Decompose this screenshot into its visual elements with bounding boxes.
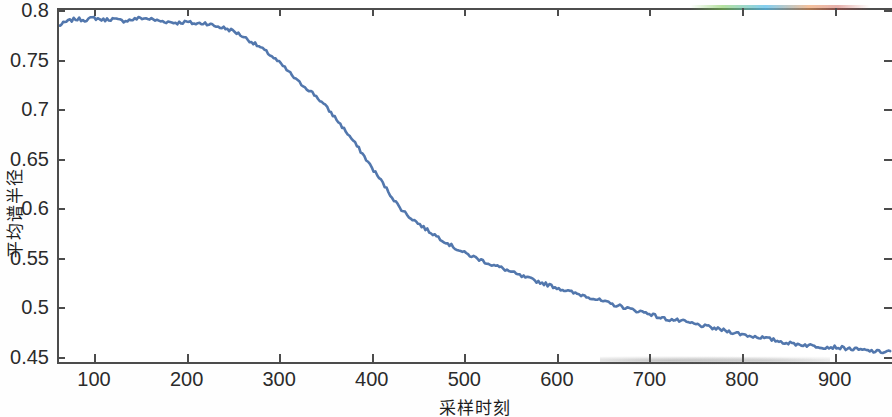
x-tick-top-800 [742, 8, 744, 16]
x-tick-label-500: 500 [448, 368, 481, 391]
x-tick-600 [557, 354, 559, 362]
y-tick-right-0.7 [884, 109, 892, 111]
axis-top-spine [57, 8, 892, 10]
axis-bottom-spine [57, 362, 892, 364]
y-tick-right-0.65 [884, 159, 892, 161]
x-tick-label-600: 600 [540, 368, 573, 391]
y-tick-0.55 [57, 258, 65, 260]
y-tick-label-0.45: 0.45 [10, 346, 49, 369]
x-tick-top-200 [187, 8, 189, 16]
x-tick-label-800: 800 [725, 368, 758, 391]
y-tick-right-0.5 [884, 307, 892, 309]
y-tick-right-0.55 [884, 258, 892, 260]
x-tick-400 [372, 354, 374, 362]
x-tick-500 [464, 354, 466, 362]
y-tick-0.65 [57, 159, 65, 161]
x-tick-top-300 [279, 8, 281, 16]
x-tick-900 [835, 354, 837, 362]
x-tick-label-100: 100 [77, 368, 110, 391]
plot-area [57, 8, 892, 362]
x-tick-800 [742, 354, 744, 362]
x-tick-top-400 [372, 8, 374, 16]
chart-figure: 100200300400500600700800900 0.450.50.550… [0, 0, 892, 417]
x-axis-title: 采样时刻 [57, 394, 892, 417]
x-tick-label-400: 400 [355, 368, 388, 391]
y-tick-right-0.8 [884, 10, 892, 12]
x-tick-label-200: 200 [170, 368, 203, 391]
y-tick-right-0.45 [884, 357, 892, 359]
x-tick-top-700 [649, 8, 651, 16]
y-tick-right-0.75 [884, 60, 892, 62]
y-tick-0.7 [57, 109, 65, 111]
y-tick-0.75 [57, 60, 65, 62]
y-tick-0.5 [57, 307, 65, 309]
y-tick-0.6 [57, 208, 65, 210]
y-tick-right-0.6 [884, 208, 892, 210]
y-axis-title: 平均谱半径 [1, 148, 26, 278]
series-line-average-spectral-radius [57, 8, 892, 362]
x-tick-top-900 [835, 8, 837, 16]
y-tick-label-0.75: 0.75 [10, 48, 49, 71]
x-tick-700 [649, 354, 651, 362]
x-tick-label-900: 900 [818, 368, 851, 391]
x-tick-100 [94, 354, 96, 362]
x-tick-300 [279, 354, 281, 362]
x-tick-label-700: 700 [633, 368, 666, 391]
y-tick-0.45 [57, 357, 65, 359]
x-tick-top-500 [464, 8, 466, 16]
y-tick-label-0.7: 0.7 [21, 98, 49, 121]
x-tick-label-300: 300 [262, 368, 295, 391]
x-tick-top-600 [557, 8, 559, 16]
y-tick-label-0.5: 0.5 [21, 296, 49, 319]
y-tick-0.8 [57, 10, 65, 12]
x-tick-top-100 [94, 8, 96, 16]
x-tick-200 [187, 354, 189, 362]
y-tick-label-0.8: 0.8 [21, 0, 49, 21]
